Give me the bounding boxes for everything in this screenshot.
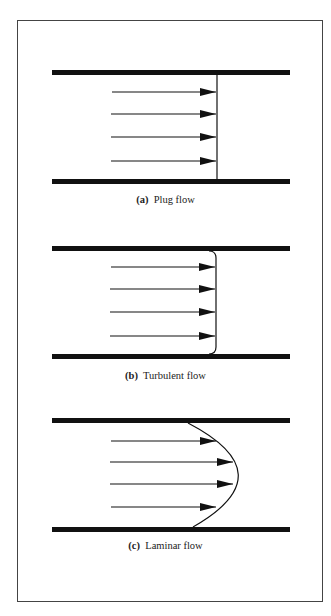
pipe-wall-bottom [52,179,290,184]
caption-title: Turbulent flow [143,370,206,381]
pipe-wall-top [52,418,290,423]
panel-turbulent-flow [52,246,290,359]
caption-label: (b) [125,370,138,381]
pipe-wall-top [52,70,290,75]
caption-label: (a) [136,194,148,205]
flow-profiles-diagram [0,0,331,616]
caption-plug-flow: (a) Plug flow [0,194,331,205]
velocity-arrows [110,441,233,507]
panel-plug-flow [52,70,290,184]
pipe-wall-bottom [52,354,290,359]
caption-turbulent-flow: (b) Turbulent flow [0,370,331,381]
caption-laminar-flow: (c) Laminar flow [0,540,331,551]
velocity-profile-parabolic [188,423,238,527]
caption-label: (c) [128,540,140,551]
caption-title: Plug flow [154,194,195,205]
pipe-wall-bottom [52,527,290,532]
velocity-arrows [111,92,216,161]
velocity-arrows [110,267,215,336]
panel-laminar-flow [52,418,290,532]
caption-title: Laminar flow [145,540,202,551]
pipe-wall-top [52,246,290,251]
